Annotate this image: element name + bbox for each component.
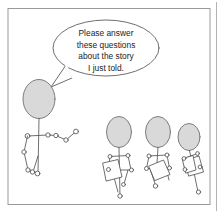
comic-panel-artwork: Please answer these questions about the … <box>0 0 220 213</box>
teacher-foot-front <box>35 171 40 176</box>
teacher-hand-joint <box>74 129 79 134</box>
speech-line-4: I just told. <box>88 63 124 73</box>
student-1-shoulder-left <box>108 155 112 159</box>
teacher-head <box>23 80 55 119</box>
teacher-wrist-joint <box>64 138 68 142</box>
student-2-foot <box>153 184 157 188</box>
teacher-left-hand-joint <box>26 168 30 172</box>
student-1-shoulder-right <box>126 154 130 158</box>
student-3-hand-right <box>198 165 202 169</box>
student-2-head <box>146 117 171 148</box>
student-3-shoulder-right <box>196 152 200 156</box>
student-2-shoulder-left <box>147 154 151 158</box>
comic-panel: Please answer these questions about the … <box>0 0 220 213</box>
student-1-paper <box>103 160 122 182</box>
teacher-left-elbow-joint <box>22 150 26 154</box>
student-2-hand-right <box>168 166 172 170</box>
student-3-head <box>178 124 200 151</box>
student-1-head <box>107 117 132 148</box>
speech-line-2: these questions <box>77 40 136 50</box>
student-3-foot <box>196 190 200 194</box>
student-1-hand-right <box>130 168 134 172</box>
teacher-elbow-joint <box>54 133 58 137</box>
speech-line-3: about the story <box>78 51 134 61</box>
student-2-shoulder-right <box>165 153 169 157</box>
student-1-foot-back <box>122 183 126 187</box>
teacher-shoulder-joint-right <box>46 133 50 137</box>
student-3-hand-left <box>183 168 187 172</box>
student-1-hand-left <box>107 168 111 172</box>
speech-line-1: Please answer <box>79 28 134 38</box>
teacher-foot-back <box>30 170 34 174</box>
student-1-foot <box>118 194 122 198</box>
student-3-shoulder-left <box>182 157 186 161</box>
student-2-hand-left <box>145 167 149 171</box>
